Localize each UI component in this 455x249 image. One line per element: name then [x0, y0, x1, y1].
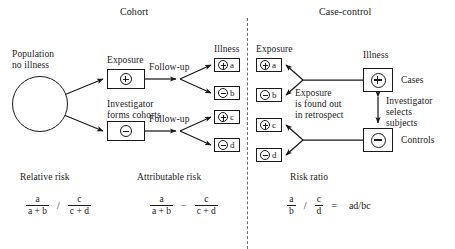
cell-tag-a: a — [230, 60, 234, 71]
fraction: a a + b — [26, 194, 49, 217]
illness-cell-b: b — [214, 86, 240, 100]
fraction-denominator: c + d — [68, 205, 91, 217]
plus-icon — [371, 73, 386, 88]
cell-tag-b: b — [272, 90, 277, 101]
illness-cell-a: a — [214, 58, 240, 72]
operator: = — [327, 200, 341, 211]
plus-icon — [260, 60, 270, 70]
measure-formula-risk-ratio: a b / c d = ad/bc — [287, 194, 375, 217]
population-label: Population no illness — [12, 49, 54, 71]
fraction-denominator: b — [287, 205, 296, 217]
fraction: a a + b — [150, 194, 173, 217]
minus-icon — [371, 133, 386, 148]
case-control-illness-heading: Illness — [363, 50, 389, 61]
panel-divider — [247, 18, 248, 249]
cell-tag-c: c — [230, 112, 234, 123]
measure-label-attributable-risk: Attributable risk — [137, 172, 201, 183]
minus-icon — [260, 90, 270, 100]
followup-label-top: Follow-up — [149, 62, 190, 73]
fraction: c d — [315, 194, 324, 217]
arrow-controls-to-exposure-d — [286, 140, 303, 155]
arrow-cases-to-exposure-a — [286, 65, 303, 80]
fraction-denominator: c + d — [195, 205, 218, 217]
cc-exposure-cell-c: c — [256, 118, 282, 132]
cohort-unexposed-box — [107, 121, 145, 141]
controls-label: Controls — [401, 135, 435, 146]
panel-title-case-control: Case-control — [319, 6, 371, 17]
retrospect-note: Exposure is found out in retrospect — [295, 88, 344, 121]
cell-tag-d: d — [230, 140, 235, 151]
measure-formula-relative-risk: a a + b / c c + d — [26, 194, 91, 217]
figure-canvas: Cohort Case-control Population no illnes… — [0, 0, 455, 249]
fraction-numerator: a — [287, 194, 296, 205]
cell-tag-d: d — [272, 150, 277, 161]
plus-icon — [260, 120, 270, 130]
arrow-population-to-exposed — [64, 79, 103, 95]
minus-icon — [218, 140, 228, 150]
arrow-exposed-to-illness-b — [180, 79, 211, 93]
fraction: c c + d — [68, 194, 91, 217]
cc-exposure-cell-d: d — [256, 148, 282, 162]
arrow-controls-to-exposure-c — [286, 125, 303, 140]
measure-label-risk-ratio: Risk ratio — [290, 172, 328, 183]
controls-box — [363, 128, 393, 152]
arrow-population-to-unexposed — [64, 115, 103, 131]
cell-tag-a: a — [272, 60, 276, 71]
minus-icon — [260, 150, 270, 160]
fraction-denominator: a + b — [26, 205, 49, 217]
fraction-numerator: a — [150, 194, 173, 205]
result-term: ad/bc — [345, 200, 375, 211]
plus-icon — [120, 73, 132, 85]
cohort-exposure-heading: Exposure — [107, 55, 144, 66]
fraction-numerator: c — [315, 194, 324, 205]
population-circle — [12, 76, 68, 132]
cases-box — [363, 68, 393, 92]
fraction-numerator: c — [195, 194, 218, 205]
illness-cell-c: c — [214, 110, 240, 124]
measure-formula-attributable-risk: a a + b − c c + d — [150, 194, 218, 217]
fraction-denominator: a + b — [150, 205, 173, 217]
plus-icon — [218, 112, 228, 122]
fraction: a b — [287, 194, 296, 217]
plus-icon — [218, 60, 228, 70]
investigator-selects-subjects-note: Investigator selects subjects — [386, 96, 433, 129]
cc-exposure-cell-b: b — [256, 88, 282, 102]
cohort-exposed-box — [107, 69, 145, 89]
cell-tag-b: b — [230, 88, 235, 99]
minus-icon — [218, 88, 228, 98]
fraction-numerator: a — [26, 194, 49, 205]
cell-tag-c: c — [272, 120, 276, 131]
minus-icon — [120, 125, 132, 137]
operator: / — [300, 200, 311, 211]
arrow-unexposed-to-illness-d — [180, 131, 211, 145]
panel-title-cohort: Cohort — [120, 6, 148, 17]
measure-label-relative-risk: Relative risk — [20, 172, 70, 183]
fraction-numerator: c — [68, 194, 91, 205]
fraction: c c + d — [195, 194, 218, 217]
cases-label: Cases — [401, 75, 424, 86]
operator: / — [53, 200, 64, 211]
case-control-exposure-heading: Exposure — [256, 44, 293, 55]
cc-exposure-cell-a: a — [256, 58, 282, 72]
illness-cell-d: d — [214, 138, 240, 152]
cohort-illness-heading: Illness — [214, 44, 240, 55]
followup-label-bottom: Follow-up — [149, 114, 190, 125]
operator: − — [177, 200, 191, 211]
fraction-denominator: d — [315, 205, 324, 217]
